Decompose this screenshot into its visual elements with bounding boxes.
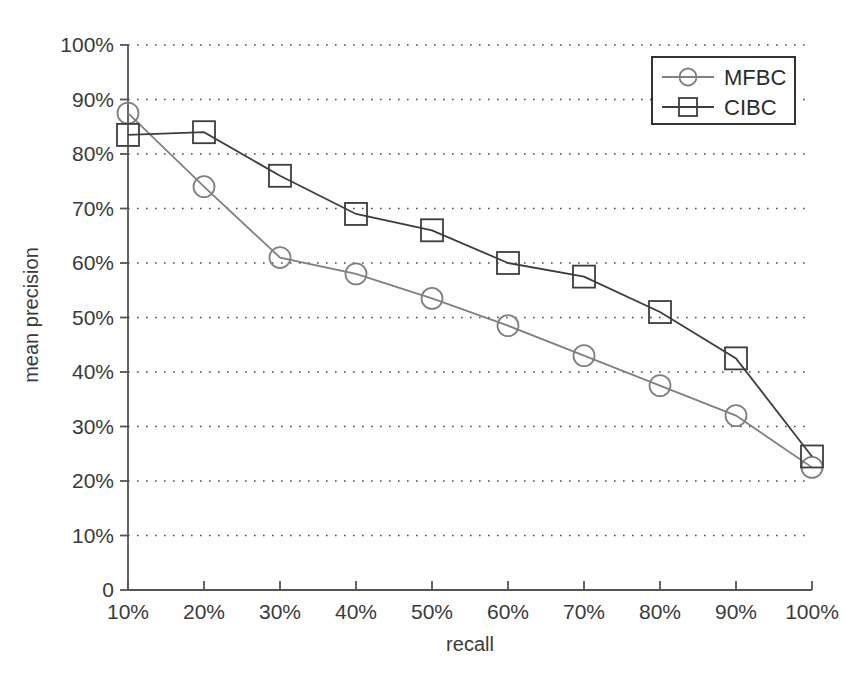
precision-recall-chart: 010%20%30%40%50%60%70%80%90%100% 10%20%3… (0, 0, 860, 673)
x-tick-labels: 10%20%30%40%50%60%70%80%90%100% (107, 600, 839, 623)
y-tick-label-30: 30% (72, 415, 114, 438)
y-tick-label-40: 40% (72, 360, 114, 383)
y-tick-label-80: 80% (72, 142, 114, 165)
x-tick-label-30: 30% (259, 600, 301, 623)
x-tick-label-60: 60% (487, 600, 529, 623)
x-tick-label-90: 90% (715, 600, 757, 623)
legend-label-cibc: CIBC (724, 95, 777, 120)
x-tick-label-70: 70% (563, 600, 605, 623)
chart-svg: 010%20%30%40%50%60%70%80%90%100% 10%20%3… (0, 0, 860, 673)
series-line-mfbc (128, 113, 812, 467)
y-axis-title: mean precision (20, 247, 42, 383)
x-tick-label-20: 20% (183, 600, 225, 623)
legend-label-mfbc: MFBC (724, 65, 786, 90)
y-axis (120, 45, 128, 590)
series-line-cibc (128, 132, 812, 456)
y-tick-label-70: 70% (72, 197, 114, 220)
x-axis-title: recall (446, 633, 494, 655)
x-tick-label-100: 100% (785, 600, 839, 623)
y-tick-label-0: 0 (102, 578, 114, 601)
y-tick-label-60: 60% (72, 251, 114, 274)
legend: MFBCCIBC (652, 57, 795, 124)
y-tick-label-20: 20% (72, 469, 114, 492)
x-tick-label-80: 80% (639, 600, 681, 623)
y-tick-label-100: 100% (60, 33, 114, 56)
series-mfbc (118, 103, 823, 478)
y-tick-labels: 010%20%30%40%50%60%70%80%90%100% (60, 33, 114, 601)
series-cibc (117, 121, 823, 467)
x-tick-label-40: 40% (335, 600, 377, 623)
y-tick-label-90: 90% (72, 88, 114, 111)
x-tick-label-50: 50% (411, 600, 453, 623)
x-tick-label-10: 10% (107, 600, 149, 623)
y-tick-label-50: 50% (72, 306, 114, 329)
data-series (117, 103, 823, 478)
x-axis (128, 581, 812, 590)
y-tick-label-10: 10% (72, 524, 114, 547)
